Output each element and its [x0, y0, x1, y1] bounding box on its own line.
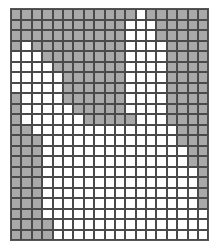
grid-cell[interactable] — [32, 198, 42, 209]
grid-cell[interactable] — [125, 114, 135, 125]
grid-cell[interactable] — [188, 146, 198, 157]
grid-cell[interactable] — [73, 188, 83, 199]
grid-cell[interactable] — [105, 230, 115, 241]
grid-cell[interactable] — [105, 72, 115, 83]
grid-cell[interactable] — [11, 30, 21, 41]
grid-cell[interactable] — [94, 93, 104, 104]
grid-cell[interactable] — [32, 9, 42, 20]
grid-cell[interactable] — [53, 135, 63, 146]
grid-cell[interactable] — [188, 9, 198, 20]
grid-cell[interactable] — [177, 9, 187, 20]
grid-cell[interactable] — [146, 146, 156, 157]
grid-cell[interactable] — [146, 156, 156, 167]
grid-cell[interactable] — [125, 146, 135, 157]
grid-cell[interactable] — [105, 125, 115, 136]
grid-cell[interactable] — [21, 41, 31, 52]
grid-cell[interactable] — [94, 51, 104, 62]
grid-cell[interactable] — [42, 9, 52, 20]
grid-cell[interactable] — [42, 72, 52, 83]
grid-cell[interactable] — [11, 135, 21, 146]
grid-cell[interactable] — [167, 104, 177, 115]
grid-cell[interactable] — [125, 198, 135, 209]
grid-cell[interactable] — [146, 135, 156, 146]
grid-cell[interactable] — [21, 114, 31, 125]
grid-cell[interactable] — [115, 83, 125, 94]
grid-cell[interactable] — [32, 41, 42, 52]
grid-cell[interactable] — [94, 198, 104, 209]
grid-cell[interactable] — [167, 198, 177, 209]
grid-cell[interactable] — [21, 230, 31, 241]
grid-cell[interactable] — [94, 167, 104, 178]
grid-cell[interactable] — [198, 177, 208, 188]
grid-cell[interactable] — [125, 219, 135, 230]
grid-cell[interactable] — [63, 230, 73, 241]
grid-cell[interactable] — [177, 156, 187, 167]
grid-cell[interactable] — [188, 62, 198, 73]
grid-cell[interactable] — [188, 209, 198, 220]
grid-cell[interactable] — [156, 135, 166, 146]
grid-cell[interactable] — [73, 230, 83, 241]
grid-cell[interactable] — [146, 51, 156, 62]
grid-cell[interactable] — [146, 177, 156, 188]
grid-cell[interactable] — [198, 167, 208, 178]
grid-cell[interactable] — [146, 198, 156, 209]
grid-cell[interactable] — [188, 30, 198, 41]
grid-cell[interactable] — [21, 9, 31, 20]
grid-cell[interactable] — [32, 30, 42, 41]
grid-cell[interactable] — [94, 146, 104, 157]
grid-cell[interactable] — [21, 72, 31, 83]
grid-cell[interactable] — [136, 198, 146, 209]
grid-cell[interactable] — [198, 114, 208, 125]
grid-cell[interactable] — [115, 167, 125, 178]
grid-cell[interactable] — [146, 219, 156, 230]
grid-cell[interactable] — [105, 198, 115, 209]
grid-cell[interactable] — [105, 114, 115, 125]
grid-cell[interactable] — [11, 219, 21, 230]
grid-cell[interactable] — [136, 230, 146, 241]
grid-cell[interactable] — [188, 93, 198, 104]
grid-cell[interactable] — [84, 20, 94, 31]
grid-cell[interactable] — [84, 146, 94, 157]
grid-cell[interactable] — [177, 72, 187, 83]
grid-cell[interactable] — [188, 198, 198, 209]
grid-cell[interactable] — [198, 135, 208, 146]
grid-cell[interactable] — [11, 177, 21, 188]
grid-cell[interactable] — [53, 209, 63, 220]
grid-cell[interactable] — [188, 230, 198, 241]
grid-cell[interactable] — [53, 156, 63, 167]
grid-cell[interactable] — [21, 156, 31, 167]
grid-cell[interactable] — [136, 20, 146, 31]
grid-cell[interactable] — [63, 72, 73, 83]
grid-cell[interactable] — [156, 83, 166, 94]
grid-cell[interactable] — [167, 72, 177, 83]
grid-cell[interactable] — [84, 230, 94, 241]
grid-cell[interactable] — [42, 230, 52, 241]
grid-cell[interactable] — [21, 177, 31, 188]
grid-cell[interactable] — [167, 41, 177, 52]
grid-cell[interactable] — [188, 125, 198, 136]
grid-cell[interactable] — [115, 219, 125, 230]
grid-cell[interactable] — [167, 114, 177, 125]
grid-cell[interactable] — [177, 125, 187, 136]
grid-cell[interactable] — [156, 114, 166, 125]
grid-cell[interactable] — [84, 62, 94, 73]
grid-cell[interactable] — [125, 20, 135, 31]
grid-cell[interactable] — [146, 41, 156, 52]
grid-cell[interactable] — [63, 104, 73, 115]
grid-cell[interactable] — [11, 41, 21, 52]
grid-cell[interactable] — [136, 83, 146, 94]
grid-cell[interactable] — [188, 51, 198, 62]
grid-cell[interactable] — [94, 62, 104, 73]
grid-cell[interactable] — [177, 188, 187, 199]
grid-cell[interactable] — [188, 114, 198, 125]
grid-cell[interactable] — [105, 219, 115, 230]
grid-cell[interactable] — [21, 20, 31, 31]
grid-cell[interactable] — [177, 167, 187, 178]
grid-cell[interactable] — [84, 219, 94, 230]
grid-cell[interactable] — [84, 156, 94, 167]
grid-cell[interactable] — [32, 104, 42, 115]
grid-cell[interactable] — [11, 114, 21, 125]
grid-cell[interactable] — [21, 167, 31, 178]
grid-cell[interactable] — [63, 209, 73, 220]
grid-cell[interactable] — [84, 198, 94, 209]
